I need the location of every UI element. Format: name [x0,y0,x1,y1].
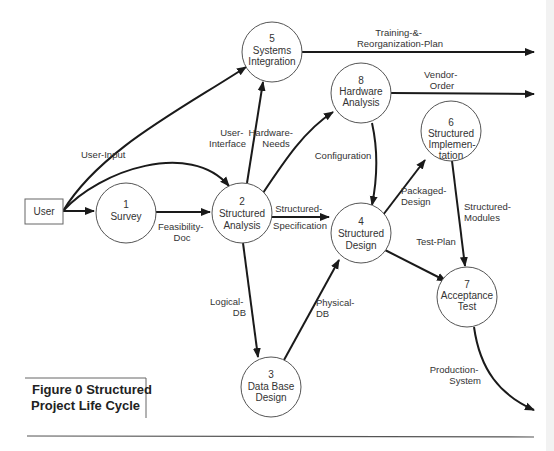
process-number: 8 [358,75,364,86]
process-number: 3 [268,369,274,380]
process-3-data-base-design[interactable]: 3 Data Base Design [241,357,301,417]
process-2-structured-analysis[interactable]: 2 Structured Analysis [212,183,272,243]
process-label: Structured [219,208,265,219]
process-label: Design [345,240,376,251]
flow-label-training-reorganization-plan: Training-&- Reorganization-Plan [357,27,443,49]
process-number: 6 [448,117,454,128]
flow-label-production-system: Production- System [430,364,481,386]
process-number: 7 [464,279,470,290]
flow-label-test-plan: Test-Plan [416,236,456,247]
flow-production-system [474,327,534,410]
flow-label-packaged-design: Packaged- Design [401,185,449,207]
process-5-systems-integration[interactable]: 5 Systems Integration [242,22,302,82]
process-number: 2 [239,196,245,207]
process-label: tation [439,150,463,161]
flow-label-user-input: User-Input [81,149,126,160]
flow-label-hardware-needs: Hardware- Needs [249,127,296,149]
process-label: Integration [248,56,295,67]
process-7-acceptance-test[interactable]: 7 Acceptance Test [437,267,497,327]
caption-line-1: Figure 0 Structured [32,382,152,397]
figure-caption: Figure 0 Structured Project Life Cycle [25,378,152,418]
process-label: Analysis [342,97,379,108]
user-label: User [33,206,55,217]
process-1-survey[interactable]: 1 Survey [96,183,156,243]
flow-label-physical-db: Physical- DB [316,297,357,319]
flow-physical-db [284,260,339,360]
caption-line-2: Project Life Cycle [31,398,140,413]
process-label: Design [255,392,286,403]
flow-test-plan [385,250,446,281]
process-label: Test [458,301,477,312]
process-label: Implemen- [428,139,475,150]
bottom-rule [27,436,534,437]
flow-label-feasibility-doc: Feasibility- Doc [158,221,206,243]
process-label: Structured [338,228,384,239]
process-label: Systems [253,45,291,56]
process-label: Structured [428,128,474,139]
process-label: Data Base [248,381,295,392]
flow-vendor-order [391,93,534,94]
process-number: 1 [123,199,129,210]
flow-label-structured-modules: Structured- Modules [464,201,514,223]
process-8-hardware-analysis[interactable]: 8 Hardware Analysis [331,63,391,123]
page-edge [546,0,554,451]
flow-label-logical-db: Logical- DB [210,296,246,318]
process-label: Survey [110,211,141,222]
external-entity-user[interactable]: User [25,199,63,224]
process-label: Analysis [223,220,260,231]
flow-label-vendor-order: Vendor- Order [424,69,460,91]
flow-configuration [372,123,377,205]
flow-label-user-interface: User- Interface [209,127,246,149]
process-4-structured-design[interactable]: 4 Structured Design [331,203,391,263]
process-6-structured-implementation[interactable]: 6 Structured Implemen- tation [421,101,481,161]
process-label: Hardware [339,86,383,97]
process-label: Acceptance [441,290,494,301]
structured-project-life-cycle-diagram: User-Input Feasibility- Doc User- Interf… [0,0,554,451]
process-number: 4 [358,216,364,227]
process-number: 5 [269,33,275,44]
flow-label-configuration: Configuration [315,150,372,161]
